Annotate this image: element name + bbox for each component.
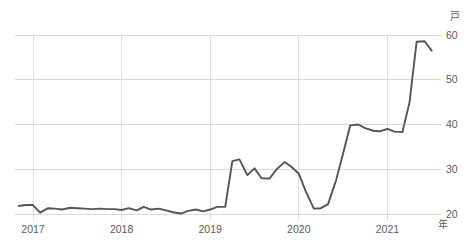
x-tick-label-2020: 2020 xyxy=(287,223,311,235)
y-tick-label-40: 40 xyxy=(446,118,458,130)
chart-background xyxy=(0,0,473,251)
x-axis-unit-label: 年 xyxy=(438,218,448,230)
y-tick-label-30: 30 xyxy=(446,163,458,175)
x-tick-label-2018: 2018 xyxy=(110,223,134,235)
x-tick-label-2021: 2021 xyxy=(376,223,400,235)
x-tick-label-2017: 2017 xyxy=(21,223,45,235)
y-tick-label-20: 20 xyxy=(446,208,458,220)
chart-container: 2030405060 20172018201920202021 戸 年 xyxy=(0,0,473,251)
y-axis-unit-label: 戸 xyxy=(450,11,460,22)
y-tick-label-60: 60 xyxy=(446,29,458,41)
y-tick-label-50: 50 xyxy=(446,73,458,85)
x-tick-label-2019: 2019 xyxy=(199,223,223,235)
line-chart: 2030405060 20172018201920202021 戸 年 xyxy=(0,0,473,251)
